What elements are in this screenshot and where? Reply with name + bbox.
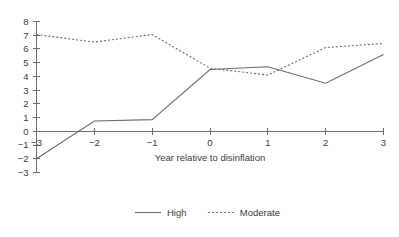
y-tick-label: 8 bbox=[23, 16, 28, 27]
x-tick-label: −1 bbox=[147, 137, 158, 148]
x-axis-title: Year relative to disinflation bbox=[155, 152, 266, 163]
y-tick-label: 1 bbox=[23, 112, 28, 123]
x-tick-label: −2 bbox=[89, 137, 100, 148]
y-tick-label: 0 bbox=[23, 126, 28, 137]
y-tick-label: −3 bbox=[18, 167, 29, 178]
x-axis-title-text: Year relative to disinflation bbox=[155, 152, 266, 163]
y-tick-label: 2 bbox=[23, 98, 28, 109]
y-tick-label: 3 bbox=[23, 85, 28, 96]
legend-label-moderate: Moderate bbox=[240, 207, 280, 218]
x-tick-label: 1 bbox=[265, 137, 270, 148]
x-tick-label: 3 bbox=[381, 137, 386, 148]
x-tick-label: 2 bbox=[323, 137, 328, 148]
x-axis: −3−2−10123 bbox=[31, 128, 386, 148]
chart-container: −3−2−1012345678 −3−2−10123 Year relative… bbox=[0, 0, 399, 237]
x-tick-label: −3 bbox=[31, 137, 42, 148]
x-tick-label: 0 bbox=[207, 137, 212, 148]
chart-legend: HighModerate bbox=[135, 207, 280, 218]
y-tick-label: 4 bbox=[23, 71, 28, 82]
y-tick-label: 6 bbox=[23, 43, 28, 54]
y-tick-label: 7 bbox=[23, 30, 28, 41]
series-line-moderate bbox=[37, 35, 384, 76]
y-tick-label: −1 bbox=[18, 139, 29, 150]
y-axis: −3−2−1012345678 bbox=[18, 16, 40, 178]
y-tick-label: −2 bbox=[18, 153, 29, 164]
line-chart: −3−2−1012345678 −3−2−10123 Year relative… bbox=[0, 0, 399, 237]
legend-label-high: High bbox=[167, 207, 187, 218]
y-tick-label: 5 bbox=[23, 57, 28, 68]
